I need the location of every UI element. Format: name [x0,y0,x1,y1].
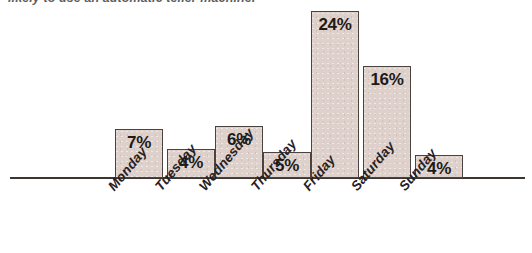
bar-value-friday: 24% [312,15,358,35]
bar-thursday: 5% [263,152,311,178]
bar-friday: 24% [311,11,359,178]
bar-value-tuesday: 4% [168,153,214,173]
bar-value-wednesday: 6% [216,130,262,150]
bar-chart-figure: likely to use an automatic teller machin… [0,0,532,253]
bar-sunday: 4% [415,155,463,178]
bar-value-monday: 7% [116,133,162,153]
plot-area: 7% 4% 6% 5% 24% 16% 4% [0,0,532,180]
bar-value-saturday: 16% [364,70,410,90]
bar-value-sunday: 4% [416,159,462,178]
bar-value-thursday: 5% [264,156,310,176]
